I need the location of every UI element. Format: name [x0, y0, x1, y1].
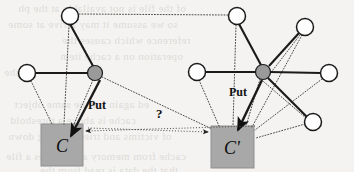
edge-lower-right-to-hub-right	[268, 78, 307, 117]
dotted-top-left-to-c	[64, 25, 69, 124]
solid-edges-group	[35, 24, 321, 117]
client-node-far-left	[19, 65, 36, 82]
edge-top-left-to-hub-left	[70, 24, 93, 66]
dotted-mid-left-to-c-prime	[199, 80, 219, 126]
diagram-canvas: CC'	[0, 0, 354, 172]
client-node-top-left	[62, 8, 79, 25]
invalidate-arrow-to-c-prime	[88, 128, 208, 132]
server-hub-right	[256, 65, 271, 80]
dotted-top-right-to-c-prime	[233, 25, 236, 126]
cache-box-c-prime-label: C'	[224, 138, 241, 158]
put-label-right: Put	[229, 85, 247, 100]
cache-put-diagram: of the file is not available at the phso…	[0, 0, 354, 172]
cache-box-c-label: C	[56, 136, 69, 156]
client-node-upper-right	[297, 19, 314, 36]
question-mark-label: ?	[156, 106, 163, 122]
put-label-left: Put	[88, 98, 106, 113]
server-hub-left	[88, 66, 103, 81]
client-node-left-of-hub-right	[189, 64, 206, 81]
dotted-lower-right-to-c-prime	[256, 124, 305, 138]
client-node-far-right	[321, 65, 338, 82]
edge-upper-right-to-hub-right	[269, 33, 299, 66]
dotted-far-left-to-c	[31, 81, 52, 124]
dotted-top-left-to-top-right	[79, 14, 228, 15]
edge-top-right-to-hub-right	[239, 24, 261, 65]
edge-far-right-to-hub-right	[270, 72, 321, 73]
client-node-lower-right	[305, 114, 322, 131]
client-node-top-right	[229, 8, 246, 25]
